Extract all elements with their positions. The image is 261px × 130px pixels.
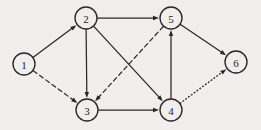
edge-layer — [33, 16, 226, 112]
arrowhead-5-to-6 — [220, 50, 226, 55]
edge-5-to-3 — [98, 26, 163, 97]
edge-5-to-6 — [181, 24, 222, 52]
arrowhead-4-to-6 — [220, 69, 226, 74]
graph-figure: 123456 — [0, 0, 261, 130]
arrowhead-2-to-3 — [85, 92, 89, 98]
node-label-3: 3 — [84, 105, 90, 117]
arrowhead-2-to-5 — [153, 16, 159, 20]
edge-2-to-4 — [94, 26, 160, 97]
node-3[interactable]: 3 — [76, 99, 98, 121]
arrowhead-3-to-4 — [153, 108, 159, 112]
edge-1-to-3 — [33, 71, 73, 100]
node-6[interactable]: 6 — [225, 51, 247, 73]
node-label-4: 4 — [168, 105, 174, 117]
node-4[interactable]: 4 — [160, 99, 182, 121]
edge-1-to-2 — [33, 28, 72, 57]
node-1[interactable]: 1 — [13, 53, 35, 75]
edge-2-to-3 — [86, 30, 87, 94]
node-label-2: 2 — [83, 13, 89, 25]
node-layer: 123456 — [13, 7, 247, 121]
node-label-5: 5 — [168, 13, 174, 25]
node-5[interactable]: 5 — [160, 7, 182, 29]
node-2[interactable]: 2 — [75, 7, 97, 29]
node-label-6: 6 — [233, 57, 239, 69]
graph-canvas: 123456 — [0, 0, 261, 130]
node-label-1: 1 — [21, 59, 27, 71]
edge-4-to-6 — [180, 72, 222, 103]
arrowhead-4-to-5 — [169, 30, 173, 36]
